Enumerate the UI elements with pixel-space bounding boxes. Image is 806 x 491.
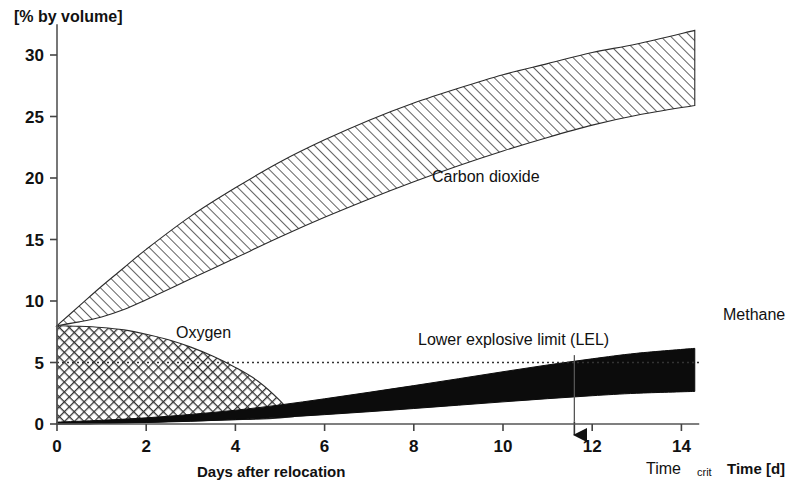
y-tick-label: 25 — [25, 108, 44, 127]
x-tick-label: 0 — [52, 437, 61, 456]
series-label-carbon-dioxide: Carbon dioxide — [432, 168, 540, 185]
y-tick-label: 15 — [25, 231, 44, 250]
x-tick-label: 2 — [141, 437, 150, 456]
chart-container: 051015202530 02468101214 [% by volume] C… — [0, 0, 806, 491]
y-tick-label: 10 — [25, 292, 44, 311]
x-axis-tick-labels: 02468101214 — [52, 437, 691, 456]
series-band-carbon-dioxide — [57, 30, 695, 325]
series-label-oxygen: Oxygen — [176, 324, 231, 341]
x-axis-title: Days after relocation — [197, 463, 345, 480]
x-tick-label: 12 — [583, 437, 602, 456]
y-axis-tick-labels: 051015202530 — [25, 46, 44, 434]
y-axis-ticks — [50, 55, 57, 424]
x-tick-label: 4 — [231, 437, 241, 456]
y-tick-label: 20 — [25, 169, 44, 188]
x-tick-label: 6 — [320, 437, 329, 456]
y-tick-label: 0 — [35, 415, 44, 434]
x-axis-ticks — [57, 424, 681, 431]
gas-concentration-chart: 051015202530 02468101214 [% by volume] C… — [0, 0, 806, 491]
y-axis-unit-label: [% by volume] — [14, 8, 122, 25]
y-tick-label: 5 — [35, 354, 44, 373]
x-axis-unit-label: Time [d] — [727, 460, 785, 477]
annotation-label-lel: Lower explosive limit (LEL) — [418, 331, 609, 348]
annotation-label-time-crit: Time — [646, 460, 681, 477]
x-tick-label: 8 — [409, 437, 418, 456]
y-tick-label: 30 — [25, 46, 44, 65]
annotation-label-time-crit-subscript: crit — [697, 466, 712, 478]
series-label-methane: Methane — [723, 306, 785, 323]
plot-area — [57, 30, 699, 435]
x-tick-label: 10 — [494, 437, 513, 456]
x-tick-label: 14 — [672, 437, 691, 456]
